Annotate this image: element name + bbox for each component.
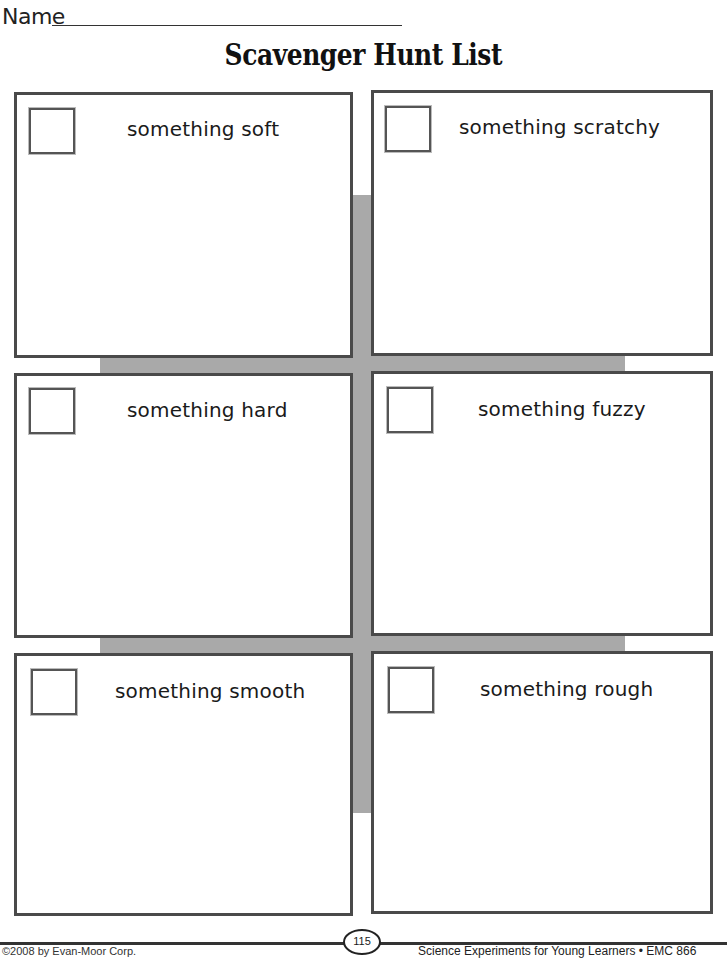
page-title: Scavenger Hunt List xyxy=(51,38,676,72)
item-box-rough: something rough xyxy=(371,651,713,914)
item-label: something smooth xyxy=(115,679,305,703)
vertical-band xyxy=(352,195,372,813)
item-label: something fuzzy xyxy=(478,397,646,421)
checkbox-smooth[interactable] xyxy=(31,669,77,715)
item-label: something scratchy xyxy=(459,115,660,139)
item-box-soft: something soft xyxy=(14,92,353,358)
item-label: something soft xyxy=(127,117,279,141)
copyright-text: ©2008 by Evan-Moor Corp. xyxy=(2,945,136,957)
book-title-text: Science Experiments for Young Learners •… xyxy=(418,944,696,958)
page-number: 115 xyxy=(343,929,381,955)
item-label: something hard xyxy=(127,398,288,422)
item-box-fuzzy: something fuzzy xyxy=(371,371,713,636)
item-box-hard: something hard xyxy=(14,373,353,638)
checkbox-scratchy[interactable] xyxy=(385,106,431,152)
checkbox-soft[interactable] xyxy=(29,108,75,154)
name-field-line[interactable] xyxy=(52,25,402,26)
checkbox-fuzzy[interactable] xyxy=(387,387,433,433)
item-label: something rough xyxy=(480,677,653,701)
checkbox-rough[interactable] xyxy=(388,667,434,713)
item-box-smooth: something smooth xyxy=(14,653,353,916)
item-box-scratchy: something scratchy xyxy=(371,90,713,356)
checkbox-hard[interactable] xyxy=(29,388,75,434)
